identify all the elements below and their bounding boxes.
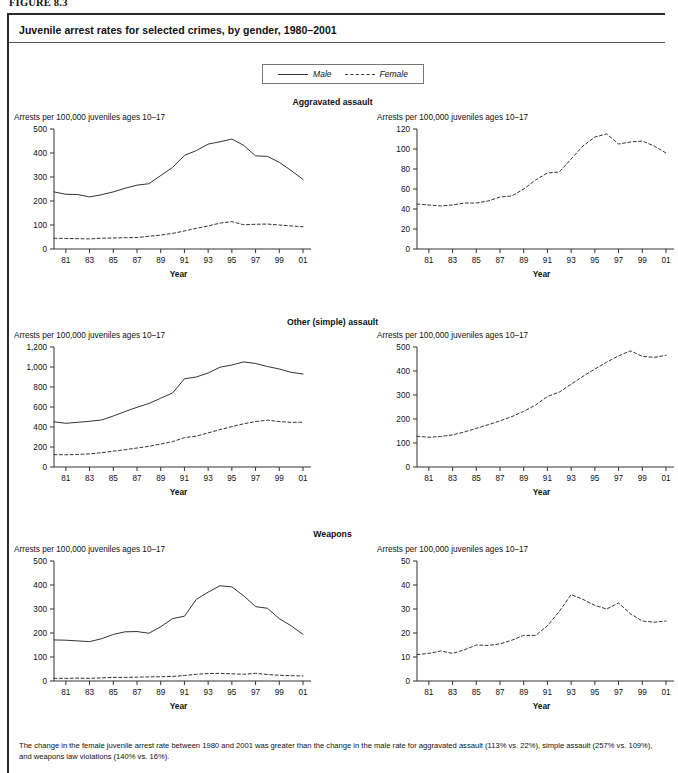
- title-divider: [9, 42, 665, 43]
- x-axis-title: Year: [170, 269, 188, 279]
- y-tick-label: 300: [14, 605, 47, 614]
- y-axis-caption: Arrests per 100,000 juveniles ages 10–17: [14, 331, 165, 340]
- x-axis-title: Year: [533, 701, 551, 711]
- y-tick-label: 0: [14, 463, 47, 472]
- section-title-simple-assault: Other (simple) assault: [0, 317, 665, 327]
- y-tick-label: 40: [377, 581, 410, 590]
- figure-title: Juvenile arrest rates for selected crime…: [19, 24, 337, 36]
- y-tick-label: 600: [14, 403, 47, 412]
- y-tick-label: 300: [377, 391, 410, 400]
- plot-area: [54, 129, 317, 259]
- y-axis-caption: Arrests per 100,000 juveniles ages 10–17: [14, 545, 165, 554]
- y-tick-label: 100: [14, 653, 47, 662]
- y-tick-label: 0: [377, 677, 410, 686]
- plot-area: [417, 129, 678, 259]
- y-tick-label: 120: [377, 125, 410, 134]
- plot-area: [417, 561, 678, 691]
- y-tick-label: 100: [377, 145, 410, 154]
- chart-legend: Male Female: [262, 64, 424, 84]
- y-axis-caption: Arrests per 100,000 juveniles ages 10–17: [377, 331, 528, 340]
- y-axis-caption: Arrests per 100,000 juveniles ages 10–17: [377, 113, 528, 122]
- y-tick-label: 400: [14, 149, 47, 158]
- y-tick-label: 100: [377, 439, 410, 448]
- frame-left-border: [7, 13, 9, 773]
- y-tick-label: 400: [14, 423, 47, 432]
- section-title-weapons: Weapons: [0, 529, 665, 539]
- y-tick-label: 800: [14, 383, 47, 392]
- series-line-male: [54, 586, 303, 642]
- y-tick-label: 10: [377, 653, 410, 662]
- series-line-female: [417, 134, 666, 206]
- female-line-swatch-icon: [345, 74, 375, 75]
- section-title-aggravated-assault: Aggravated assault: [0, 97, 665, 107]
- y-tick-label: 0: [377, 245, 410, 254]
- series-line-male: [54, 139, 303, 197]
- series-line-female: [54, 673, 303, 678]
- y-tick-label: 500: [14, 125, 47, 134]
- y-tick-label: 400: [377, 367, 410, 376]
- legend-label-male: Male: [313, 69, 331, 79]
- figure-label: FIGURE 8.3: [9, 0, 68, 8]
- series-line-male: [54, 362, 303, 423]
- plot-area: [54, 561, 317, 691]
- y-tick-label: 20: [377, 225, 410, 234]
- y-axis-caption: Arrests per 100,000 juveniles ages 10–17: [14, 113, 165, 122]
- series-line-female: [417, 595, 666, 655]
- legend-item-female: Female: [345, 69, 408, 79]
- plot-area: [54, 347, 317, 477]
- y-tick-label: 60: [377, 185, 410, 194]
- y-tick-label: 500: [377, 343, 410, 352]
- y-tick-label: 0: [14, 245, 47, 254]
- x-axis-title: Year: [533, 269, 551, 279]
- y-tick-label: 200: [377, 415, 410, 424]
- y-tick-label: 0: [377, 463, 410, 472]
- legend-label-female: Female: [380, 69, 408, 79]
- series-line-female: [54, 420, 303, 455]
- y-tick-label: 200: [14, 629, 47, 638]
- y-tick-label: 400: [14, 581, 47, 590]
- figure-footnote: The change in the female juvenile arrest…: [19, 741, 655, 763]
- x-axis-title: Year: [170, 701, 188, 711]
- y-tick-label: 200: [14, 443, 47, 452]
- series-line-female: [417, 351, 666, 437]
- y-tick-label: 500: [14, 557, 47, 566]
- y-tick-label: 0: [14, 677, 47, 686]
- plot-area: [417, 347, 678, 477]
- y-axis-caption: Arrests per 100,000 juveniles ages 10–17: [377, 545, 528, 554]
- y-tick-label: 300: [14, 173, 47, 182]
- y-tick-label: 50: [377, 557, 410, 566]
- male-line-swatch-icon: [278, 74, 308, 75]
- y-tick-label: 20: [377, 629, 410, 638]
- y-tick-label: 200: [14, 197, 47, 206]
- y-tick-label: 1,200: [14, 343, 47, 352]
- y-tick-label: 1,000: [14, 363, 47, 372]
- y-tick-label: 100: [14, 221, 47, 230]
- series-line-female: [54, 222, 303, 239]
- y-tick-label: 40: [377, 205, 410, 214]
- x-axis-title: Year: [533, 487, 551, 497]
- legend-item-male: Male: [278, 69, 331, 79]
- y-tick-label: 80: [377, 165, 410, 174]
- y-tick-label: 30: [377, 605, 410, 614]
- x-axis-title: Year: [170, 487, 188, 497]
- frame-top-border: [7, 13, 665, 15]
